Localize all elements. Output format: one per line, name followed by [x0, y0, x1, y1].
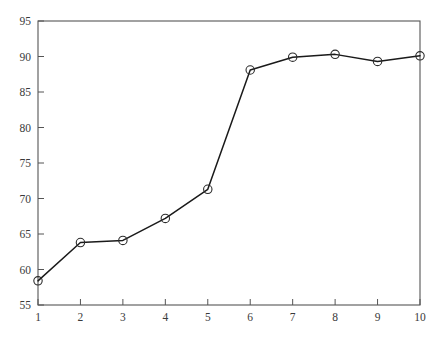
line-chart-figure: 556065707580859095 12345678910 x=1, y=58…	[0, 0, 445, 345]
x-tick-label: 4	[162, 311, 168, 323]
x-tick-label: 2	[78, 311, 84, 323]
y-tick-label: 55	[20, 299, 32, 311]
y-tick-label: 60	[20, 264, 32, 276]
y-axis-tick-labels: 556065707580859095	[20, 15, 32, 311]
y-tick-label: 90	[20, 51, 32, 63]
x-tick-label: 10	[414, 311, 426, 323]
y-tick-label: 65	[20, 228, 32, 240]
x-tick-label: 3	[120, 311, 126, 323]
x-tick-label: 9	[375, 311, 381, 323]
y-tick-label: 95	[20, 15, 32, 27]
x-tick-label: 8	[332, 311, 338, 323]
chart-background	[0, 0, 445, 345]
x-tick-label: 6	[247, 311, 253, 323]
y-tick-label: 70	[20, 193, 32, 205]
x-tick-label: 1	[35, 311, 41, 323]
y-tick-label: 75	[20, 157, 32, 169]
y-tick-label: 80	[20, 122, 32, 134]
chart-canvas: 556065707580859095 12345678910 x=1, y=58…	[0, 0, 445, 345]
x-tick-label: 5	[205, 311, 211, 323]
y-tick-label: 85	[20, 86, 32, 98]
x-tick-label: 7	[290, 311, 296, 323]
